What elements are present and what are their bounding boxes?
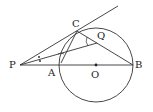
center-dot-o bbox=[95, 64, 98, 67]
geometry-diagram: P A O B C Q bbox=[0, 0, 153, 112]
label-q: Q bbox=[97, 31, 105, 41]
angle-arc-q bbox=[86, 37, 88, 46]
label-c: C bbox=[72, 19, 80, 29]
angle-mark-dot-1 bbox=[38, 56, 40, 58]
label-b: B bbox=[135, 60, 142, 70]
angle-mark-dot-2 bbox=[39, 60, 41, 62]
diagram-canvas bbox=[0, 0, 153, 112]
label-p: P bbox=[9, 60, 16, 70]
label-o: O bbox=[91, 70, 99, 80]
label-a: A bbox=[48, 68, 55, 78]
